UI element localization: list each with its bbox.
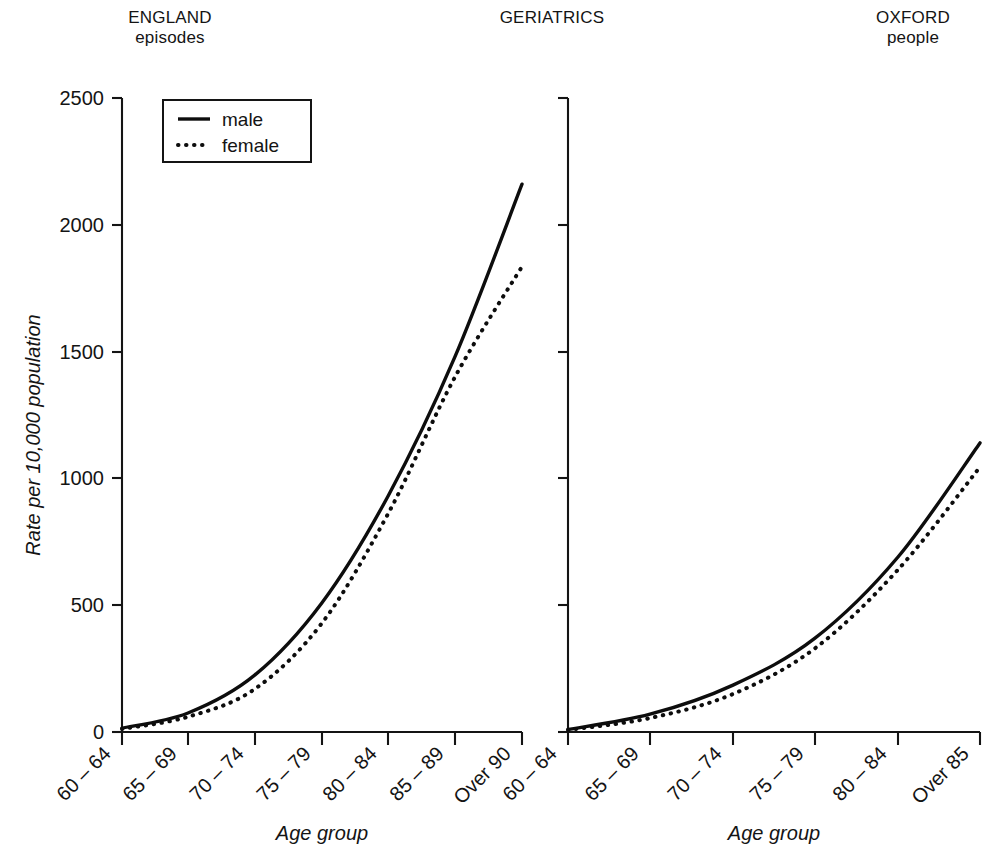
left-x-tick-label-4: 80 – 84 xyxy=(318,742,381,805)
panel-header-left: ENGLAND episodes xyxy=(70,8,270,48)
right-y-ticks xyxy=(558,98,568,732)
right-x-tick-label-4: 80 – 84 xyxy=(828,742,891,805)
left-x-axis-title: Age group xyxy=(275,822,368,844)
panel-header-right-title: OXFORD xyxy=(876,8,950,27)
right-x-ticks xyxy=(568,732,980,745)
left-x-tick-label-5: 85 – 89 xyxy=(385,742,448,805)
panel-header-left-title: ENGLAND xyxy=(128,8,212,27)
legend: male female xyxy=(163,100,311,162)
y-tick-label-1500: 1500 xyxy=(60,341,105,363)
legend-label-female: female xyxy=(222,135,279,156)
figure-container: ENGLAND episodes GERIATRICS OXFORD peopl… xyxy=(0,0,1004,857)
left-series-male-line xyxy=(122,184,522,728)
right-x-tick-label-2: 70 – 74 xyxy=(663,742,726,805)
right-series-male-line xyxy=(568,443,980,730)
right-x-tick-label-1: 65 – 69 xyxy=(580,742,643,805)
y-tick-label-2000: 2000 xyxy=(60,214,105,236)
right-x-axis-title: Age group xyxy=(727,822,820,844)
panel-header-left-subtitle: episodes xyxy=(70,28,270,48)
left-y-ticks xyxy=(112,98,122,732)
right-series-female-line xyxy=(568,467,980,730)
y-axis-title: Rate per 10,000 population xyxy=(22,314,44,555)
y-tick-label-500: 500 xyxy=(71,594,104,616)
left-x-tick-label-0: 60 – 64 xyxy=(52,742,115,805)
y-tick-label-2500: 2500 xyxy=(60,87,105,109)
y-tick-label-1000: 1000 xyxy=(60,467,105,489)
left-x-tick-label-2: 70 – 74 xyxy=(185,742,248,805)
left-x-tick-label-6: Over 90 xyxy=(449,742,515,808)
legend-label-male: male xyxy=(222,109,263,130)
right-x-tick-label-5: Over 85 xyxy=(907,742,973,808)
left-x-tick-label-1: 65 – 69 xyxy=(118,742,181,805)
panel-header-right-subtitle: people xyxy=(828,28,998,48)
y-tick-label-0: 0 xyxy=(93,721,104,743)
right-panel: 60 – 64 65 – 69 70 – 74 75 – 79 80 – 84 … xyxy=(498,98,980,844)
chart-main-title-text: GERIATRICS xyxy=(500,8,605,27)
chart-main-title: GERIATRICS xyxy=(452,8,652,28)
panel-header-right: OXFORD people xyxy=(828,8,998,48)
chart-svg: 0 500 1000 1500 2000 2500 Rate per 10,00… xyxy=(0,0,1004,857)
left-x-ticks xyxy=(122,732,522,745)
left-panel: 0 500 1000 1500 2000 2500 Rate per 10,00… xyxy=(22,87,522,844)
right-x-tick-label-3: 75 – 79 xyxy=(745,742,808,805)
left-x-tick-label-3: 75 – 79 xyxy=(252,742,315,805)
